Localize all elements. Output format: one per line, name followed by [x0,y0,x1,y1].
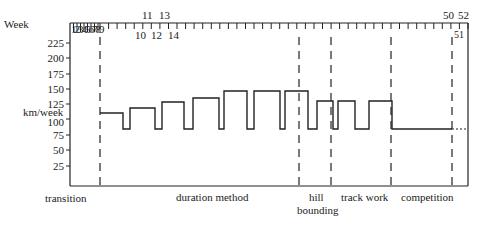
y-tick-100: 100 [48,117,65,128]
y-tick-25: 25 [53,161,64,172]
y-axis-label: km/week [23,107,63,118]
phase-dividers [100,37,452,186]
week-9: 9 [99,24,105,35]
week-50-label: 50 [443,10,454,21]
week-52-label: 52 [458,10,469,21]
y-tick-200: 200 [48,53,65,64]
y-tick-175: 175 [48,69,65,80]
week-13-label: 13 [159,10,170,21]
week-51-label: 51 [454,29,464,40]
y-tick-50: 50 [53,145,64,156]
y-tick-225: 225 [48,38,65,49]
km-per-week-step-line [100,91,452,129]
y-tick-150: 150 [48,84,65,95]
week-11-label: 11 [142,10,153,21]
week-axis-label: Week [4,19,29,30]
week-10-label: 10 [135,30,146,41]
y-tick-75: 75 [53,130,64,141]
phase-label-duration-method: duration method [176,192,248,203]
week-14-label: 14 [168,30,179,41]
phase-label-bounding: bounding [297,205,339,216]
axes [70,23,468,186]
phase-label-competition: competition [401,192,454,203]
phase-label-transition: transition [45,193,87,204]
phase-label-track-work: track work [341,192,388,203]
phase-label-hill: hill [309,192,324,203]
week-12-label: 12 [151,30,162,41]
